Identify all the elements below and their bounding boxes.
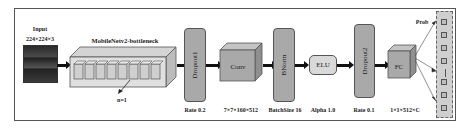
dropout2-label: Dropout2: [361, 48, 369, 75]
conv-label: Conv: [220, 63, 256, 71]
arrow-input-bottleneck: [57, 64, 67, 67]
arrow-dropout1-conv: [206, 64, 219, 67]
prob-cell: [441, 32, 447, 38]
elu-param: Alpha 1.0: [306, 107, 340, 113]
dropout1-param: Rate 0.2: [178, 107, 212, 113]
bottleneck-title: MobileNetv2-bottleneck: [80, 37, 170, 44]
bottleneck-repeat: n=1: [112, 97, 132, 103]
ellipsis-divider: [445, 69, 446, 77]
repeat-pointer-icon: [115, 78, 135, 96]
prob-cell: [441, 92, 447, 98]
dropout1-label: Dropout1: [191, 52, 199, 79]
prob-cell: [441, 19, 447, 25]
input-size: 224×224×3: [18, 36, 62, 42]
bnorm-param: BatchSize 16: [266, 107, 304, 113]
elu-layer: ELU: [309, 55, 337, 75]
bnorm-layer: BNorm: [273, 28, 295, 102]
dropout2-param: Rate 0.1: [347, 107, 381, 113]
elu-label: ELU: [310, 61, 336, 69]
arrow-dropout2-fc: [375, 64, 386, 67]
dropout2-layer: Dropout2: [354, 24, 375, 98]
input-title: Input: [22, 26, 58, 32]
prob-cell: [441, 105, 447, 111]
prob-cell: [441, 58, 447, 64]
prob-cell: [441, 45, 447, 51]
fc-output-connections: [412, 16, 438, 106]
fc-label: FC: [388, 63, 410, 71]
fc-param: 1×1×512×C: [384, 107, 426, 113]
input-image: [23, 45, 58, 83]
prob-cell: [441, 79, 447, 85]
arrow-bnorm-elu: [295, 64, 305, 67]
conv-layer: [219, 42, 263, 82]
bnorm-label: BNorm: [280, 55, 288, 76]
dropout1-layer: Dropout1: [184, 28, 206, 102]
arrow-conv-bnorm: [263, 64, 273, 67]
output-probability-vector: [436, 11, 453, 118]
conv-param: 7×7×160×512: [218, 107, 264, 113]
output-prob-label: Prob: [412, 19, 432, 25]
arrow-elu-dropout2: [337, 64, 350, 67]
